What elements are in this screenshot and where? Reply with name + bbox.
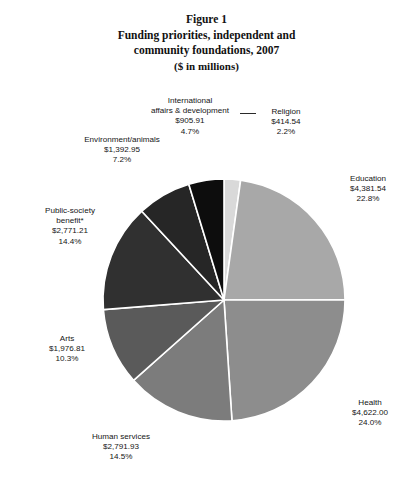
slice-label-name: Human services <box>54 432 188 442</box>
slice-label-value: $414.54 <box>250 117 322 127</box>
slice-label-value: $2,771.21 <box>18 226 122 236</box>
slice-label-health: Health $4,622.00 24.0% <box>330 398 410 429</box>
slice-label-percent: 24.0% <box>330 418 410 428</box>
slice-label-name: Health <box>330 398 410 408</box>
pie-slice-health <box>224 300 345 421</box>
slice-label-religion: Religion $414.54 2.2% <box>250 107 322 138</box>
slice-label-name: Education <box>326 174 410 184</box>
slice-label-value: $4,381.54 <box>326 184 410 194</box>
slice-label-percent: 14.5% <box>54 452 188 462</box>
slice-label-human-services: Human services $2,791.93 14.5% <box>54 432 188 463</box>
slice-label-name-line-1: International <box>124 96 256 106</box>
figure-container: Figure 1 Funding priorities, independent… <box>0 0 413 495</box>
slice-label-percent: 2.2% <box>250 127 322 137</box>
slice-label-percent: 10.3% <box>18 354 116 364</box>
slice-label-percent: 7.2% <box>56 155 188 165</box>
slice-label-value: $1,976.81 <box>18 344 116 354</box>
slice-label-name-line-2: affairs & development <box>124 106 256 116</box>
slice-label-name-line-2: benefit* <box>18 216 122 226</box>
slice-label-name-line-1: Public-society <box>18 206 122 216</box>
slice-label-value: $905.91 <box>124 116 256 126</box>
slice-label-value: $2,791.93 <box>54 442 188 452</box>
slice-label-education: Education $4,381.54 22.8% <box>326 174 410 205</box>
pie-slice-group <box>103 179 345 421</box>
slice-label-international-affairs: International affairs & development $905… <box>124 96 256 137</box>
slice-label-percent: 22.8% <box>326 194 410 204</box>
slice-label-name: Environment/animals <box>56 135 188 145</box>
slice-label-percent: 14.4% <box>18 237 122 247</box>
slice-label-name: Arts <box>18 334 116 344</box>
slice-label-name: Religion <box>250 107 322 117</box>
slice-label-value: $1,392.95 <box>56 145 188 155</box>
slice-label-arts: Arts $1,976.81 10.3% <box>18 334 116 365</box>
slice-label-value: $4,622.00 <box>330 408 410 418</box>
slice-label-environment-animals: Environment/animals $1,392.95 7.2% <box>56 135 188 166</box>
slice-label-public-society-benefit: Public-society benefit* $2,771.21 14.4% <box>18 206 122 247</box>
